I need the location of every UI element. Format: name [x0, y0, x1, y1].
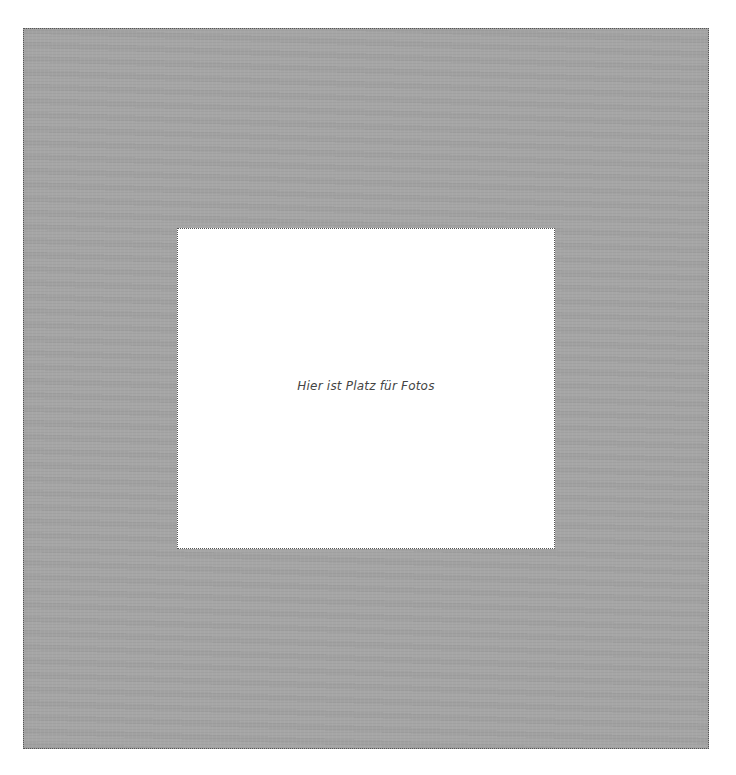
photo-placeholder-slot[interactable]: Hier ist Platz für Fotos: [177, 228, 555, 549]
photo-placeholder-text: Hier ist Platz für Fotos: [297, 379, 434, 393]
